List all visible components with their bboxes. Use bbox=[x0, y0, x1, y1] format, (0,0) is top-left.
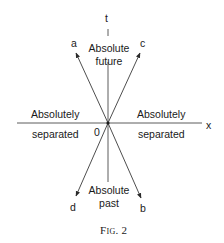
worldline-c-label: c bbox=[140, 37, 145, 49]
absolutely-separated-right-line1: Absolutely bbox=[137, 108, 185, 120]
absolute-past-line2: past bbox=[86, 197, 132, 209]
worldline-d-label: d bbox=[70, 201, 76, 213]
absolute-past-label: Absolute past bbox=[86, 184, 132, 209]
figure-caption: Fig. 2 bbox=[100, 224, 127, 236]
absolute-future-line1: Absolute bbox=[86, 42, 132, 54]
absolutely-separated-left-line1: Absolutely bbox=[31, 108, 79, 120]
origin-point bbox=[106, 121, 109, 124]
absolute-past-line1: Absolute bbox=[86, 184, 132, 196]
absolutely-separated-right-line2: separated bbox=[138, 128, 185, 140]
origin-label: 0 bbox=[94, 126, 100, 138]
absolute-future-label: Absolute future bbox=[86, 42, 132, 67]
worldline-b-label: b bbox=[140, 202, 146, 214]
absolutely-separated-left-line2: separated bbox=[32, 128, 79, 140]
absolute-future-line2: future bbox=[86, 55, 132, 67]
x-axis-label: x bbox=[206, 119, 211, 131]
t-axis-label: t bbox=[105, 12, 108, 24]
worldline-a-label: a bbox=[71, 37, 77, 49]
